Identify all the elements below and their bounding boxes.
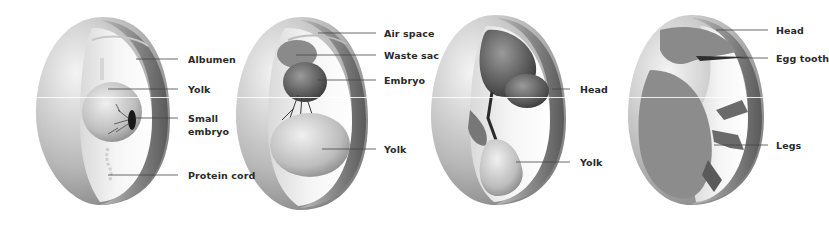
label-yolk-stage-1: Yolk [188,83,211,96]
label-albumen: Albumen [188,53,236,66]
egg-stage-1 [36,17,178,205]
label-head-stage-3: Head [580,83,608,96]
label-small: Small [188,112,218,125]
small-embryo [128,110,136,130]
label-egg-tooth: Egg tooth [776,52,829,65]
embryo-head [505,74,549,108]
egg-stage-2 [236,17,376,210]
yolk [270,113,350,177]
label-legs: Legs [776,139,801,152]
label-yolk-stage-3: Yolk [580,156,603,169]
label-yolk-stage-2: Yolk [384,143,407,156]
label-protein-cord: Protein cord [188,169,255,182]
label-waste-sac: Waste sac [384,49,439,62]
scanline-artifact [0,97,818,98]
label-air-space: Air space [384,27,434,40]
label-embryo-stage-2: Embryo [384,74,425,87]
egg-stage-3 [431,15,570,205]
label-head-stage-4: Head [776,24,804,37]
label-embryo-stage-1: embryo [188,125,229,138]
embryo [283,62,327,102]
egg-stage-4 [628,15,768,205]
